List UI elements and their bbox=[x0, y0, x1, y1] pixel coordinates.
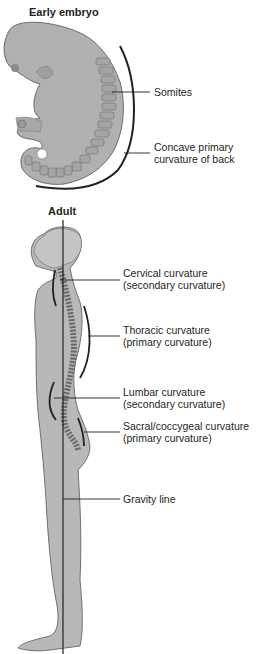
label-cervical-line2: (secondary curvature) bbox=[123, 279, 225, 291]
label-lumbar-line1: Lumbar curvature bbox=[123, 386, 205, 398]
adult-title: Adult bbox=[48, 205, 76, 217]
label-sacral-line1: Sacral/coccygeal curvature bbox=[123, 420, 249, 432]
label-sacral-line2: (primary curvature) bbox=[123, 432, 212, 444]
label-concave-line1: Concave primary bbox=[154, 141, 233, 153]
label-lumbar-line2: (secondary curvature) bbox=[123, 398, 225, 410]
label-somites: Somites bbox=[154, 86, 192, 98]
label-concave-line2: curvature of back bbox=[154, 153, 235, 165]
adult-illustration bbox=[18, 220, 120, 654]
label-thoracic-line1: Thoracic curvature bbox=[123, 324, 210, 336]
embryo-title: Early embryo bbox=[29, 6, 99, 18]
label-cervical-line1: Cervical curvature bbox=[123, 267, 208, 279]
embryo-illustration bbox=[4, 22, 150, 188]
label-gravity-line: Gravity line bbox=[123, 493, 176, 505]
label-thoracic-line2: (primary curvature) bbox=[123, 336, 212, 348]
